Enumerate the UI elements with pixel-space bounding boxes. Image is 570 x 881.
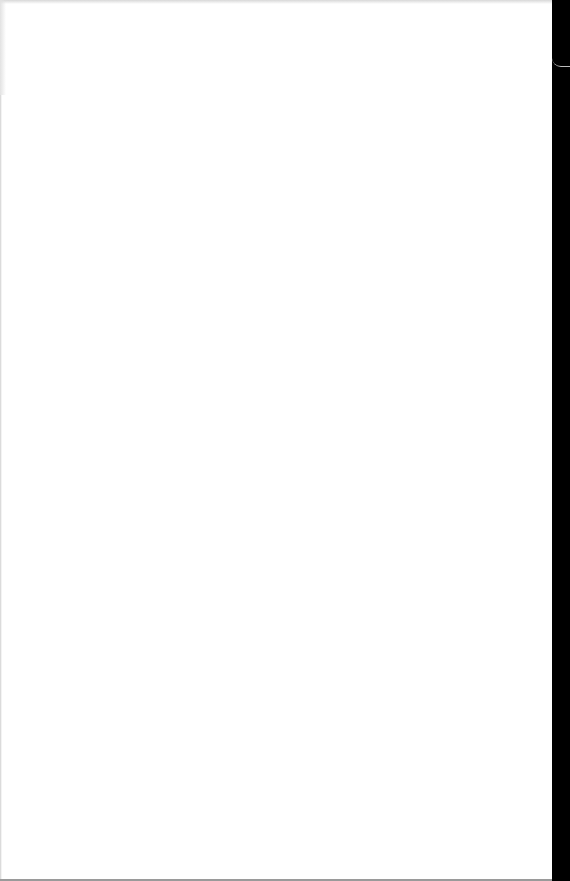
left-edge-shadow <box>0 0 6 95</box>
page-curl-mark <box>552 58 570 67</box>
blank-paper-sheet <box>0 0 552 881</box>
scanned-page <box>0 0 570 881</box>
scanner-background-strip <box>552 0 570 881</box>
top-edge-shadow <box>0 0 552 4</box>
left-edge-line <box>0 95 2 881</box>
